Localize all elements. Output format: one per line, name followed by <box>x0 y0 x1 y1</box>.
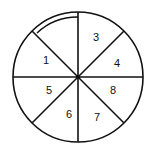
sector-label-7: 7 <box>94 111 100 123</box>
sector-label-5: 5 <box>46 84 52 96</box>
center-pivot <box>76 75 80 79</box>
spinner-diagram: 3 4 1 5 8 6 7 <box>0 0 150 149</box>
sector-label-8: 8 <box>110 84 116 96</box>
sector-label-4: 4 <box>114 57 120 69</box>
sector-label-6: 6 <box>66 108 72 120</box>
sector-label-1: 1 <box>43 54 49 66</box>
sector-label-3: 3 <box>93 31 99 43</box>
